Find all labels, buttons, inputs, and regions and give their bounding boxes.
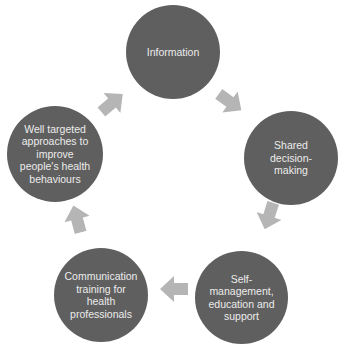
node-label: Communication training for health profes… (65, 270, 138, 320)
node-shared-decision-making: Shared decision- making (244, 111, 338, 205)
node-label: Well targeted approaches to improve peop… (20, 123, 90, 186)
arrow-right-icon (211, 83, 249, 120)
arrow-right-icon (160, 276, 188, 302)
node-self-management: Self- management, education and support (195, 251, 288, 344)
node-label: Information (147, 46, 200, 59)
arrow-right-icon (61, 202, 93, 236)
node-label: Shared decision- making (270, 139, 312, 177)
node-well-targeted-approaches: Well targeted approaches to improve peop… (7, 106, 103, 202)
node-label: Self- management, education and support (209, 273, 275, 323)
node-communication-training: Communication training for health profes… (54, 248, 148, 342)
node-information: Information (126, 5, 220, 99)
cycle-diagram: Information Shared decision- making Self… (0, 0, 344, 346)
arrow-right-icon (93, 84, 131, 122)
